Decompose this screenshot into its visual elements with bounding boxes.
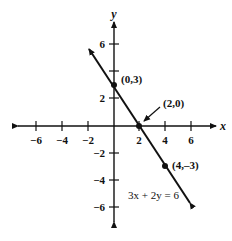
x-tick-label: 6 <box>188 134 194 146</box>
x-tick-label: 4 <box>162 134 168 146</box>
y-tick-label: −2 <box>93 147 105 159</box>
y-tick-label: 6 <box>100 38 106 50</box>
x-tick-label: −6 <box>30 134 42 146</box>
equation-label: 3x + 2y = 6 <box>128 189 179 201</box>
y-tick-label: −6 <box>93 201 105 213</box>
point-label-0-3: (0,3) <box>121 73 142 86</box>
point-label-4-neg3: (4,–3) <box>172 159 199 172</box>
y-tick-label: −4 <box>93 174 105 186</box>
point-0-3 <box>111 82 117 88</box>
coordinate-plane: −6 −4 −2 2 4 6 6 2 −2 −4 −6 y x (0,3) (2… <box>0 0 232 241</box>
point-4-neg3 <box>162 163 168 169</box>
x-axis-label: x <box>219 119 226 133</box>
x-tick-label: −4 <box>56 134 68 146</box>
point-label-2-0: (2,0) <box>163 97 184 110</box>
annotation-arrow <box>144 107 160 121</box>
y-tick-label: 2 <box>100 92 106 104</box>
y-axis-label: y <box>109 7 117 21</box>
x-tick-label: −2 <box>82 134 94 146</box>
point-2-0 <box>136 123 142 129</box>
x-tick-label: 2 <box>136 134 142 146</box>
